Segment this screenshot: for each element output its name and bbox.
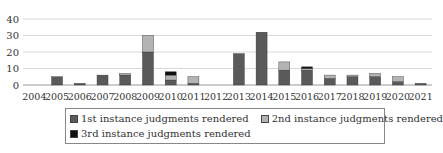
bar-segment — [256, 32, 267, 85]
bar-segment — [74, 83, 85, 85]
bar-segment — [347, 75, 358, 77]
bar-segment — [165, 72, 176, 75]
x-tick-label: 2020 — [386, 91, 410, 102]
x-tick-label: 2017 — [318, 91, 342, 102]
x-tick-label: 2007 — [90, 91, 114, 102]
legend-label: 2nd instance judgments rendered — [272, 111, 443, 126]
y-axis: 010203040 — [6, 14, 19, 91]
x-tick-label: 2012 — [204, 91, 228, 102]
x-tick-label: 2009 — [136, 91, 160, 102]
bar-segment — [165, 75, 176, 80]
bar-segment — [415, 83, 426, 85]
bar-segment — [302, 70, 313, 85]
legend-swatch-icon — [70, 115, 78, 123]
legend-swatch-icon — [261, 115, 269, 123]
bar-segment — [165, 80, 176, 85]
bar-segment — [52, 77, 63, 85]
x-tick-label: 2006 — [68, 91, 92, 102]
legend-label: 1st instance judgments rendered — [81, 111, 249, 126]
x-tick-label: 2016 — [295, 91, 319, 102]
legend-item-2nd-instance: 2nd instance judgments rendered — [261, 111, 443, 126]
bar-segment — [370, 77, 381, 85]
legend-item-1st-instance: 1st instance judgments rendered — [70, 111, 249, 126]
bar-segment — [188, 77, 199, 84]
y-tick-label: 40 — [6, 14, 19, 25]
x-tick-label: 2011 — [181, 91, 205, 102]
x-tick-label: 2018 — [340, 91, 364, 102]
bar-segment — [188, 83, 199, 85]
x-tick-label: 2015 — [272, 91, 296, 102]
bar-segment — [302, 67, 313, 69]
bar-segment — [233, 54, 244, 85]
bar-segment — [142, 52, 153, 85]
bar-segment — [302, 69, 313, 71]
y-tick-label: 10 — [6, 63, 19, 74]
bar-segment — [120, 73, 131, 75]
bar-segment — [324, 75, 335, 78]
bar-segment — [279, 70, 290, 85]
bar-segment — [97, 75, 108, 85]
bar-segment — [347, 77, 358, 85]
x-tick-label: 2019 — [363, 91, 387, 102]
x-tick-label: 2004 — [22, 91, 46, 102]
y-tick-label: 20 — [6, 47, 19, 58]
bar-segment — [392, 77, 403, 82]
bar-segment — [324, 78, 335, 85]
x-axis: 2004200520062007200820092010201120122013… — [22, 91, 432, 102]
x-tick-label: 2005 — [45, 91, 69, 102]
legend-item-3rd-instance: 3rd instance judgments rendered — [70, 126, 251, 141]
legend-swatch-icon — [70, 130, 78, 138]
x-tick-label: 2021 — [409, 91, 433, 102]
bar-segment — [370, 73, 381, 76]
bar-segment — [392, 82, 403, 85]
bar-segment — [142, 36, 153, 53]
legend: 1st instance judgments rendered 2nd inst… — [65, 108, 385, 144]
y-tick-label: 0 — [13, 80, 19, 91]
bars — [52, 32, 427, 85]
x-tick-label: 2008 — [113, 91, 137, 102]
bar-segment — [279, 62, 290, 70]
y-tick-label: 30 — [6, 30, 19, 41]
x-tick-label: 2013 — [227, 91, 251, 102]
bar-segment — [120, 75, 131, 85]
x-tick-label: 2010 — [159, 91, 183, 102]
x-tick-label: 2014 — [249, 91, 273, 102]
legend-label: 3rd instance judgments rendered — [81, 126, 251, 141]
